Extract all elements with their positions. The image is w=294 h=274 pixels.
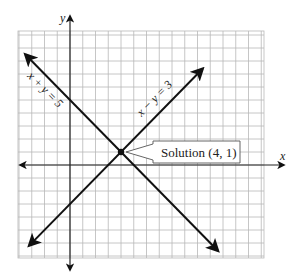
y-axis-label: y bbox=[59, 11, 66, 25]
solution-label: Solution (4, 1) bbox=[161, 145, 236, 160]
x-axis-label: x bbox=[279, 149, 286, 163]
solution-point bbox=[118, 149, 124, 155]
system-of-equations-graph: xy x + y = 5x − y = 3 Solution (4, 1) bbox=[0, 0, 294, 274]
solution-callout: Solution (4, 1) bbox=[126, 141, 240, 163]
axes: xy bbox=[20, 11, 286, 270]
